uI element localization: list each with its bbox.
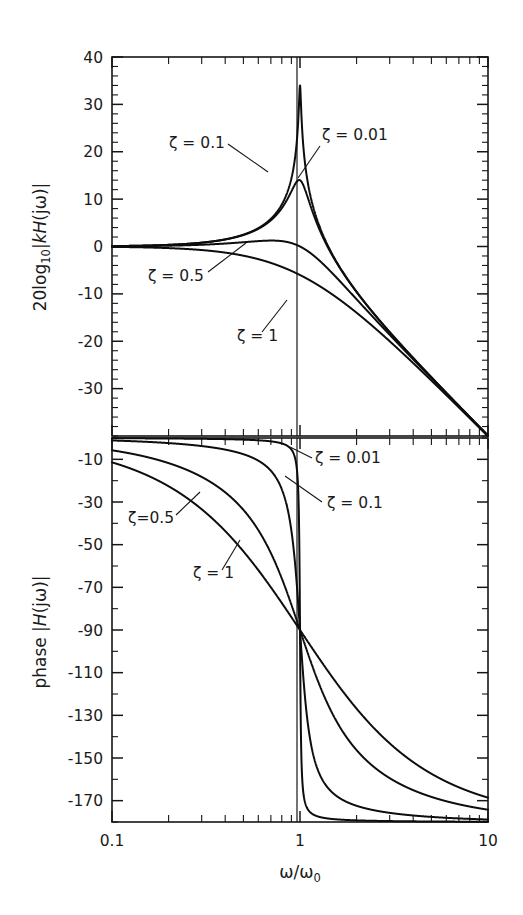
magnitude-ytick-label: 30: [83, 96, 103, 114]
x-axis-title: ω/ω0: [279, 862, 321, 885]
phase-curves: [112, 438, 488, 822]
svg-text:20log10|kH(jω)|: 20log10|kH(jω)|: [30, 183, 53, 312]
phase-curve-label: ζ = 0.01: [315, 449, 381, 467]
magnitude-ytick-label: 0: [93, 238, 103, 256]
magnitude-curve-leader-line: [228, 144, 268, 172]
magnitude-curve-label: ζ = 0.5: [148, 267, 204, 285]
magnitude-ytick-label: 10: [83, 191, 103, 209]
x-tick-label: 1: [295, 832, 305, 850]
phase-curve-label: ζ = 1: [193, 564, 234, 582]
magnitude-ytick-label: -20: [78, 333, 103, 351]
phase-tick-labels: -10-30-50-70-90-110-130-150-170: [68, 451, 103, 810]
phase-curve-label: ζ=0.5: [128, 509, 174, 527]
magnitude-curve-zeta-0.1: [112, 180, 488, 436]
magnitude-curve-label: ζ = 0.01: [322, 126, 388, 144]
phase-ytick-label: -70: [78, 579, 103, 597]
phase-ytick-label: -150: [68, 750, 103, 768]
phase-curve-leader-line: [285, 476, 322, 502]
x-tick-label: 0.1: [100, 832, 125, 850]
phase-curve-leader-line: [176, 492, 200, 515]
phase-ytick-label: -130: [68, 707, 103, 725]
phase-ytick-label: -110: [68, 664, 103, 682]
magnitude-axis-title: 20log10|kH(jω)|: [30, 183, 53, 312]
phase-panel: -10-30-50-70-90-110-130-150-170 ζ = 0.01…: [30, 438, 488, 822]
magnitude-ytick-label: -30: [78, 380, 103, 398]
x-axis-tick-labels: 0.1110: [100, 832, 498, 850]
magnitude-annotations: ζ = 0.1ζ = 0.01ζ = 0.5ζ = 1: [148, 126, 388, 345]
magnitude-curve-label: ζ = 1: [237, 327, 278, 345]
magnitude-ytick-label: 40: [83, 49, 103, 67]
bode-plot-canvas: 403020100-10-20-30 ζ = 0.1ζ = 0.01ζ = 0.…: [0, 0, 523, 915]
phase-ytick-label: -30: [78, 494, 103, 512]
phase-curve-label: ζ = 0.1: [327, 494, 383, 512]
phase-ytick-label: -170: [68, 792, 103, 810]
bode-figure: 403020100-10-20-30 ζ = 0.1ζ = 0.01ζ = 0.…: [0, 0, 523, 915]
magnitude-ytick-label: 20: [83, 143, 103, 161]
phase-ytick-label: -50: [78, 536, 103, 554]
magnitude-tick-labels: 403020100-10-20-30: [78, 49, 103, 399]
x-tick-label: 10: [478, 832, 498, 850]
phase-annotations: ζ = 0.01ζ = 0.1ζ=0.5ζ = 1: [128, 447, 383, 582]
magnitude-curve-label: ζ = 0.1: [169, 134, 225, 152]
svg-text:phase |H(jω)|: phase |H(jω)|: [30, 575, 50, 688]
magnitude-curve-leader-line: [208, 243, 246, 272]
magnitude-curve-leader-line: [298, 146, 320, 178]
magnitude-panel: 403020100-10-20-30 ζ = 0.1ζ = 0.01ζ = 0.…: [30, 49, 488, 437]
phase-ytick-label: -90: [78, 622, 103, 640]
phase-ytick-label: -10: [78, 451, 103, 469]
phase-axis-title: phase |H(jω)|: [30, 575, 50, 688]
magnitude-ytick-label: -10: [78, 285, 103, 303]
